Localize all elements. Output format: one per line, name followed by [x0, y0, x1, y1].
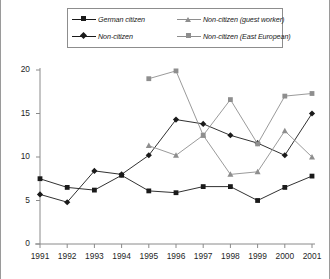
data-point-marker-square [65, 185, 70, 190]
y-axis-tick-label: 5 [8, 195, 30, 205]
data-point-marker-square [146, 76, 151, 81]
series-line-0 [40, 175, 312, 200]
data-point-marker-square [282, 185, 287, 190]
data-point-marker-triangle [282, 128, 288, 134]
y-axis-tick-label: 20 [8, 64, 30, 74]
line-chart-plot [1, 0, 330, 279]
x-axis-tick-label: 2001 [295, 251, 329, 261]
data-point-marker-diamond [200, 121, 206, 127]
data-point-marker-square [310, 91, 315, 96]
data-point-marker-square [310, 174, 315, 179]
data-point-marker-square [174, 69, 179, 74]
data-point-marker-triangle [255, 169, 261, 175]
data-point-marker-square [174, 190, 179, 195]
data-point-marker-diamond [227, 132, 233, 138]
data-point-marker-diamond [309, 110, 315, 116]
data-point-marker-square [146, 189, 151, 194]
data-point-marker-square [201, 184, 206, 189]
y-axis-tick-label: 15 [8, 108, 30, 118]
data-point-marker-square [282, 94, 287, 99]
data-point-marker-square [228, 184, 233, 189]
data-point-marker-square [228, 97, 233, 102]
data-point-marker-square [255, 198, 260, 203]
data-point-marker-square [255, 142, 260, 147]
data-point-marker-diamond [282, 152, 288, 158]
y-axis-tick-label: 10 [8, 151, 30, 161]
data-point-marker-square [201, 133, 206, 138]
y-axis-tick-label: 0 [8, 238, 30, 248]
data-point-marker-triangle [146, 143, 152, 149]
chart-figure: German citizen Non-citizen (guest worker… [0, 0, 330, 279]
data-point-marker-square [92, 188, 97, 193]
data-point-marker-diamond [37, 191, 43, 197]
data-point-marker-square [38, 176, 43, 181]
